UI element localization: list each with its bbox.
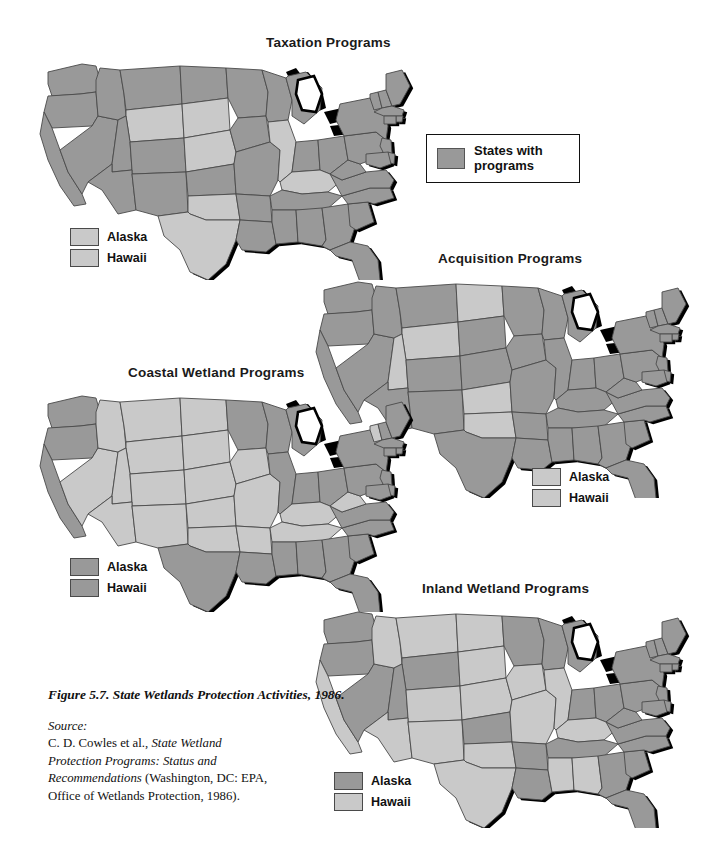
ak-hi-row-alaska: Alaska bbox=[532, 468, 609, 486]
state-ct bbox=[384, 448, 396, 456]
alaska-swatch bbox=[70, 558, 99, 576]
state-ar bbox=[512, 412, 548, 440]
lake-michigan-water bbox=[572, 294, 598, 330]
state-co bbox=[130, 470, 186, 506]
state-ar bbox=[236, 194, 272, 222]
alaska-swatch bbox=[70, 228, 99, 246]
state-al bbox=[572, 756, 602, 794]
alaska-label: Alaska bbox=[569, 470, 609, 484]
state-tx bbox=[158, 544, 240, 612]
state-or bbox=[320, 640, 374, 676]
map-title-coastal: Coastal Wetland Programs bbox=[128, 365, 304, 380]
hawaii-swatch bbox=[70, 579, 99, 597]
ak-hi-row-hawaii: Hawaii bbox=[70, 249, 147, 267]
source-line1: C. D. Cowles et al., bbox=[48, 736, 151, 750]
state-in bbox=[568, 688, 596, 720]
state-ms bbox=[548, 758, 574, 792]
state-ar bbox=[512, 742, 548, 770]
state-mo bbox=[234, 142, 280, 196]
state-wa bbox=[48, 64, 100, 96]
state-wa bbox=[324, 282, 376, 314]
ak-hi-row-hawaii: Hawaii bbox=[70, 579, 147, 597]
state-in bbox=[568, 358, 596, 390]
state-or bbox=[320, 310, 374, 346]
state-nm bbox=[408, 720, 464, 764]
state-mt bbox=[396, 284, 458, 328]
state-ar bbox=[236, 526, 272, 554]
hawaii-label: Hawaii bbox=[107, 251, 147, 265]
state-la bbox=[512, 768, 552, 800]
source-line3: Recommendations bbox=[48, 771, 142, 785]
legend-label-line1: States with bbox=[474, 143, 543, 158]
lake-michigan-water bbox=[296, 408, 322, 444]
state-in bbox=[292, 472, 320, 504]
state-al bbox=[572, 426, 602, 464]
hawaii-label: Hawaii bbox=[371, 795, 411, 809]
source-label: Source: bbox=[48, 718, 348, 735]
hawaii-swatch bbox=[532, 489, 561, 507]
state-co bbox=[130, 138, 186, 174]
state-nm bbox=[132, 172, 188, 216]
source-italic1: State Wetland bbox=[151, 736, 221, 750]
state-mn bbox=[502, 286, 544, 336]
source-line4: Office of Wetlands Protection, 1986). bbox=[48, 789, 240, 803]
state-nd bbox=[180, 66, 228, 104]
state-wa bbox=[48, 396, 100, 428]
state-or bbox=[44, 92, 98, 128]
state-wy bbox=[126, 104, 184, 142]
ak-hi-row-hawaii: Hawaii bbox=[532, 489, 609, 507]
state-nm bbox=[132, 504, 188, 548]
lake-michigan-water bbox=[296, 76, 322, 112]
state-or bbox=[44, 424, 98, 460]
state-nd bbox=[456, 284, 504, 322]
state-wy bbox=[126, 436, 184, 474]
state-mt bbox=[120, 398, 182, 442]
alaska-label: Alaska bbox=[107, 230, 147, 244]
state-mn bbox=[226, 400, 268, 450]
alaska-swatch bbox=[532, 468, 561, 486]
figure-caption: Figure 5.7. State Wetlands Protection Ac… bbox=[48, 686, 348, 806]
state-ct bbox=[660, 334, 672, 342]
state-co bbox=[406, 686, 462, 722]
alaska-label: Alaska bbox=[107, 560, 147, 574]
state-wy bbox=[402, 652, 460, 690]
legend-label: States with programs bbox=[474, 144, 543, 173]
state-in bbox=[292, 140, 320, 172]
hawaii-label: Hawaii bbox=[569, 491, 609, 505]
state-al bbox=[296, 540, 326, 578]
state-tx bbox=[434, 760, 516, 828]
state-nd bbox=[456, 614, 504, 652]
state-mn bbox=[226, 68, 268, 118]
state-ri bbox=[396, 116, 403, 122]
state-ri bbox=[672, 664, 679, 670]
state-ms bbox=[272, 542, 298, 576]
state-fl bbox=[606, 460, 656, 498]
state-la bbox=[236, 220, 276, 252]
state-tx bbox=[158, 212, 240, 280]
figure-container: Taxation Programs Alaska Hawaii States w… bbox=[0, 0, 711, 865]
hawaii-swatch bbox=[70, 249, 99, 267]
state-ct bbox=[384, 116, 396, 124]
map-title-acquisition: Acquisition Programs bbox=[438, 251, 582, 266]
state-wa bbox=[324, 612, 376, 644]
lake-michigan-water bbox=[572, 624, 598, 660]
state-mo bbox=[234, 474, 280, 528]
ak-hi-legend-coastal: Alaska Hawaii bbox=[70, 558, 147, 600]
source-body: C. D. Cowles et al., State WetlandProtec… bbox=[48, 735, 348, 806]
state-nd bbox=[180, 398, 228, 436]
state-tx bbox=[434, 430, 516, 498]
legend-label-line2: programs bbox=[474, 158, 534, 173]
state-wy bbox=[402, 322, 460, 360]
ak-hi-row-alaska: Alaska bbox=[70, 228, 147, 246]
state-al bbox=[296, 208, 326, 246]
state-ms bbox=[548, 428, 574, 462]
program-swatch-icon bbox=[437, 148, 465, 169]
state-mn bbox=[502, 616, 544, 666]
state-fl bbox=[606, 790, 656, 828]
state-mo bbox=[510, 690, 556, 744]
state-la bbox=[236, 552, 276, 584]
ak-hi-legend-acquisition: Alaska Hawaii bbox=[532, 468, 609, 510]
source-line2: Protection Programs: Status and bbox=[48, 754, 217, 768]
state-mo bbox=[510, 360, 556, 414]
state-ms bbox=[272, 210, 298, 244]
